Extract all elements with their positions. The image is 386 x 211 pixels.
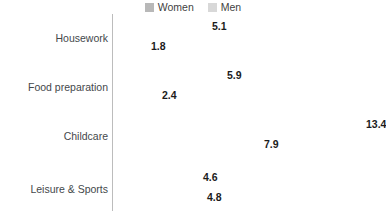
bar-value-housework-women: 5.1: [212, 20, 227, 32]
bar-value-food-preparation-men: 2.4: [162, 89, 177, 101]
category-label-food-preparation: Food preparation: [0, 81, 108, 93]
bar-group-housework: Housework 5.1 1.8: [0, 14, 386, 64]
bar-value-leisure-sports-men: 4.8: [207, 191, 222, 203]
bar-chart: Women Men s) Housework 5.1 1.8 Food prep…: [0, 0, 386, 211]
bar-row-food-preparation-women: 5.9: [113, 67, 222, 83]
bar-value-childcare-men: 7.9: [264, 138, 279, 150]
bar-value-food-preparation-women: 5.9: [227, 69, 242, 81]
bar-value-housework-men: 1.8: [151, 40, 166, 52]
bar-row-food-preparation-men: 2.4: [113, 87, 157, 103]
bar-row-housework-men: 1.8: [113, 38, 146, 54]
legend-label-women: Women: [158, 2, 194, 13]
bar-row-leisure-sports-men: 4.8: [113, 189, 202, 205]
category-label-housework: Housework: [0, 32, 108, 44]
legend-entry-women[interactable]: Women: [145, 2, 194, 13]
bar-group-food-preparation: Food preparation 5.9 2.4: [0, 63, 386, 113]
chart-legend: Women Men: [0, 1, 386, 14]
bar-row-leisure-sports-women: 4.6: [113, 169, 198, 185]
legend-entry-men[interactable]: Men: [208, 2, 241, 13]
bar-group-childcare: Childcare 13.4 7.9: [0, 112, 386, 162]
plot-area: Housework 5.1 1.8 Food preparation 5.9 2…: [0, 14, 386, 211]
category-label-childcare: Childcare: [0, 130, 108, 142]
bar-row-childcare-women: 13.4: [113, 116, 361, 132]
legend-swatch-women-icon: [145, 3, 154, 12]
bar-value-childcare-women: 13.4: [366, 118, 386, 130]
category-label-leisure-sports: Leisure & Sports: [0, 183, 108, 195]
legend-swatch-men-icon: [208, 3, 217, 12]
legend-label-men: Men: [221, 2, 241, 13]
bar-group-leisure-sports: Leisure & Sports 4.6 4.8: [0, 165, 386, 211]
bar-row-childcare-men: 7.9: [113, 136, 259, 152]
bar-row-housework-women: 5.1: [113, 18, 207, 34]
bar-value-leisure-sports-women: 4.6: [203, 171, 218, 183]
